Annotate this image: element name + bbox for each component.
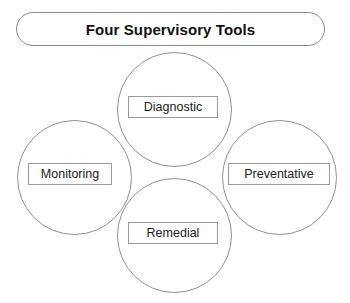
label-box-preventative: Preventative — [228, 163, 330, 185]
label-box-remedial: Remedial — [128, 222, 218, 244]
label-box-diagnostic: Diagnostic — [128, 96, 218, 118]
label-box-monitoring: Monitoring — [28, 163, 112, 185]
label-text-remedial: Remedial — [147, 226, 200, 240]
diagram-canvas: Four Supervisory Tools Diagnostic Monito… — [0, 0, 350, 303]
diagram-title-banner: Four Supervisory Tools — [16, 12, 325, 46]
label-text-preventative: Preventative — [244, 167, 313, 181]
label-text-monitoring: Monitoring — [41, 167, 99, 181]
page-title: Four Supervisory Tools — [86, 21, 255, 38]
label-text-diagnostic: Diagnostic — [144, 100, 202, 114]
